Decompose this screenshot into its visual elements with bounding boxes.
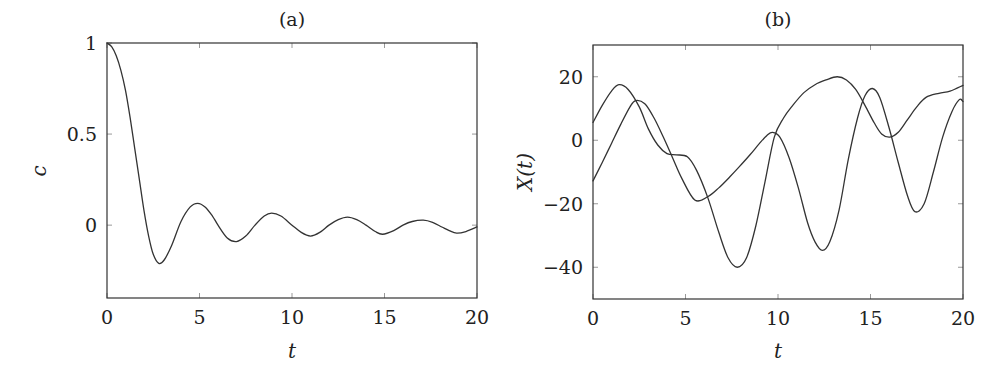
panel-b-ticks (593, 45, 963, 299)
panel-b-frame (593, 45, 963, 299)
x-tick-label: 20 (951, 307, 975, 329)
figure: (a) 0510152000.51 t c (b) 05101520−40−20… (0, 0, 1006, 374)
y-tick-label: 20 (559, 66, 583, 88)
x-tick-label: 5 (679, 307, 691, 329)
panel-b-tick-labels: 05101520−40−20020 (543, 66, 975, 329)
panel-a-title: (a) (279, 8, 305, 30)
y-tick-label: −40 (543, 256, 583, 278)
panel-b-x-axis-label: t (774, 339, 783, 363)
x-tick-label: 15 (372, 306, 396, 328)
panel-a-curves (107, 43, 477, 264)
y-tick-label: −20 (543, 193, 583, 215)
panel-a-y-axis-label: c (27, 165, 51, 176)
y-tick-label: 1 (85, 32, 97, 54)
x-tick-label: 5 (193, 306, 205, 328)
panel-a-frame (107, 43, 477, 298)
panel-b-y-axis-label: X(t) (513, 153, 537, 193)
x-tick-label: 20 (465, 306, 489, 328)
panel-a-chart: (a) 0510152000.51 t c (27, 8, 489, 363)
panel-a-tick-labels: 0510152000.51 (67, 32, 489, 328)
panel-b-curves (593, 77, 963, 268)
y-tick-label: 0 (571, 129, 583, 151)
y-tick-label: 0 (85, 214, 97, 236)
x-tick-label: 0 (587, 307, 599, 329)
panel-a-x-axis-label: t (288, 339, 297, 363)
x-tick-label: 0 (101, 306, 113, 328)
panel-a-ticks (107, 43, 477, 298)
panel-b-title: (b) (765, 8, 792, 30)
data-curve (593, 88, 963, 250)
data-curve (593, 77, 963, 268)
x-tick-label: 10 (766, 307, 790, 329)
panel-b-chart: (b) 05101520−40−20020 t X(t) (513, 8, 975, 363)
data-curve (107, 43, 477, 264)
x-tick-label: 15 (858, 307, 882, 329)
y-tick-label: 0.5 (67, 123, 97, 145)
x-tick-label: 10 (280, 306, 304, 328)
